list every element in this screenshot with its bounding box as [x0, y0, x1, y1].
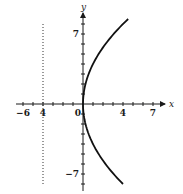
x-axis-label: x	[169, 99, 174, 109]
x-axis-tick-labels: −64047	[16, 108, 156, 118]
series-layer	[43, 19, 128, 184]
y-axis-label: y	[80, 2, 87, 12]
x-tick-label: 4	[120, 108, 126, 118]
x-tick-label: 4	[40, 108, 46, 118]
chart-canvas: −64047 7−7 x y	[0, 0, 183, 194]
parabola-chart: −64047 7−7 x y	[0, 0, 183, 194]
y-tick-label: 7	[73, 29, 79, 39]
x-tick-label: −6	[16, 108, 30, 118]
x-tick-label: 0	[75, 108, 81, 118]
x-tick-label: 7	[150, 108, 156, 118]
parabola-curve	[83, 19, 128, 184]
y-tick-label: −7	[65, 169, 79, 179]
